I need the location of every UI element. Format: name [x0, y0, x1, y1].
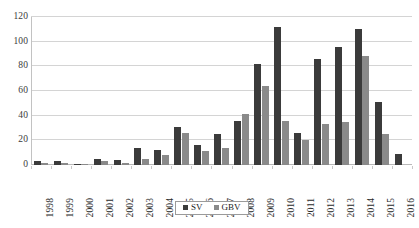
bar-gbv-2006 — [202, 151, 209, 165]
x-tick-2015 — [372, 166, 373, 169]
bar-gbv-2009 — [262, 86, 269, 165]
bar-gbv-2015 — [382, 134, 389, 165]
bar-group — [211, 17, 231, 165]
bar-group — [31, 17, 51, 165]
x-tick-label-2000: 2000 — [85, 198, 95, 217]
x-tick-2006 — [191, 166, 192, 169]
x-tick-label-1998: 1998 — [45, 198, 55, 217]
bar-gbv-2014 — [362, 56, 369, 165]
x-tick-label-2004: 2004 — [165, 198, 175, 217]
bar-sv-2005 — [174, 127, 181, 165]
y-axis-tick-labels: 020406080100120 — [0, 17, 28, 165]
bar-gbv-2002 — [122, 163, 129, 165]
x-tick-label-2010: 2010 — [286, 198, 296, 217]
x-tick-2014 — [352, 166, 353, 169]
bar-group — [171, 17, 191, 165]
y-tick-label-80: 80 — [0, 62, 28, 72]
bar-group — [131, 17, 151, 165]
x-tick-label-2014: 2014 — [366, 198, 376, 217]
bar-sv-2010 — [274, 27, 281, 165]
bar-sv-2006 — [194, 145, 201, 165]
bar-gbv-2000 — [81, 164, 88, 165]
bar-gbv-2005 — [182, 133, 189, 165]
bar-gbv-2011 — [302, 140, 309, 165]
x-tick-end — [412, 166, 413, 169]
bar-sv-1998 — [34, 161, 41, 165]
x-tick-label-2011: 2011 — [306, 198, 316, 217]
y-tick-label-20: 20 — [0, 136, 28, 146]
bar-group — [332, 17, 352, 165]
x-tick-2012 — [312, 166, 313, 169]
bar-group — [232, 17, 252, 165]
x-tick-2013 — [332, 166, 333, 169]
bar-gbv-2013 — [342, 122, 349, 165]
x-tick-2009 — [252, 166, 253, 169]
y-axis-line — [31, 17, 32, 165]
bar-sv-2004 — [154, 150, 161, 165]
bar-group — [51, 17, 71, 165]
x-tick-label-2013: 2013 — [346, 198, 356, 217]
x-tick-2000 — [71, 166, 72, 169]
bar-gbv-2004 — [162, 155, 169, 165]
y-tick-label-0: 0 — [0, 160, 28, 170]
bar-gbv-2010 — [282, 121, 289, 165]
y-tick-label-100: 100 — [0, 37, 28, 47]
chart-legend: SV GBV — [175, 201, 249, 215]
bar-sv-2003 — [134, 148, 141, 165]
bar-gbv-1998 — [41, 163, 48, 165]
bar-group — [392, 17, 412, 165]
bar-gbv-2003 — [142, 159, 149, 165]
legend-label-gbv: GBV — [222, 203, 241, 212]
bar-sv-2016 — [395, 154, 402, 165]
bar-sv-2007 — [214, 134, 221, 165]
x-tick-2011 — [292, 166, 293, 169]
x-tick-1999 — [51, 166, 52, 169]
y-tick-label-60: 60 — [0, 86, 28, 96]
plot-area — [31, 17, 412, 165]
bar-sv-2013 — [335, 47, 342, 165]
x-tick-2001 — [91, 166, 92, 169]
bar-group — [191, 17, 211, 165]
bar-sv-2002 — [114, 160, 121, 165]
x-tick-label-2012: 2012 — [326, 198, 336, 217]
bar-sv-1999 — [54, 161, 61, 165]
x-tick-2007 — [211, 166, 212, 169]
bar-sv-2008 — [234, 121, 241, 165]
legend-item-sv: SV — [183, 203, 203, 212]
x-tick-label-2001: 2001 — [105, 198, 115, 217]
x-tick-2002 — [111, 166, 112, 169]
bar-sv-2012 — [314, 59, 321, 165]
x-tick-2008 — [232, 166, 233, 169]
x-tick-label-2016: 2016 — [406, 198, 416, 217]
y-tick-label-40: 40 — [0, 111, 28, 121]
bar-group — [292, 17, 312, 165]
bar-gbv-2007 — [222, 148, 229, 165]
x-tick-2003 — [131, 166, 132, 169]
bar-group — [312, 17, 332, 165]
bar-group — [252, 17, 272, 165]
bar-gbv-1999 — [61, 163, 68, 165]
bar-group — [71, 17, 91, 165]
x-tick-2004 — [151, 166, 152, 169]
legend-label-sv: SV — [191, 203, 203, 212]
bar-sv-2000 — [74, 164, 81, 165]
x-axis-tick-labels: 1998199920002001200220032004200520062007… — [31, 166, 412, 200]
legend-item-gbv: GBV — [214, 203, 241, 212]
bar-sv-2001 — [94, 159, 101, 165]
bar-chart: 020406080100120 199819992000200120022003… — [0, 0, 419, 228]
bar-group — [111, 17, 131, 165]
x-tick-1998 — [31, 166, 32, 169]
bar-group — [372, 17, 392, 165]
x-tick-label-2002: 2002 — [125, 198, 135, 217]
y-tick-label-120: 120 — [0, 12, 28, 22]
bar-sv-2009 — [254, 64, 261, 165]
x-tick-label-1999: 1999 — [65, 198, 75, 217]
bar-group — [272, 17, 292, 165]
bar-sv-2011 — [294, 133, 301, 165]
bar-sv-2014 — [355, 29, 362, 165]
x-tick-label-2003: 2003 — [145, 198, 155, 217]
x-tick-2010 — [272, 166, 273, 169]
bar-sv-2015 — [375, 102, 382, 165]
bar-gbv-2001 — [101, 161, 108, 165]
bar-group — [91, 17, 111, 165]
